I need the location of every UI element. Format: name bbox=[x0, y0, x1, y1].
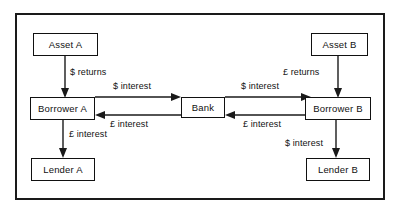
connector-asset-a-to-borrower-a bbox=[61, 56, 69, 98]
node-label: Asset A bbox=[49, 39, 83, 50]
node-borrower-a[interactable]: Borrower A bbox=[30, 97, 95, 120]
diagram-canvas: Asset A Borrower A Lender A Bank Asset B… bbox=[0, 0, 398, 214]
node-asset-a[interactable]: Asset A bbox=[33, 33, 98, 56]
node-lender-a[interactable]: Lender A bbox=[31, 158, 95, 181]
edge-label-asset-b-to-borrower-b: £ returns bbox=[283, 67, 319, 77]
node-borrower-b[interactable]: Borrower B bbox=[305, 97, 371, 120]
edge-label-borrower-a-to-lender-a: £ interest bbox=[69, 129, 107, 139]
connector-asset-b-to-borrower-b bbox=[334, 56, 342, 98]
node-bank[interactable]: Bank bbox=[181, 97, 225, 118]
node-label: Lender A bbox=[43, 164, 83, 175]
connector-borrower-a-to-bank bbox=[95, 93, 181, 101]
connector-bank-to-borrower-a bbox=[95, 111, 181, 119]
edge-label-asset-a-to-borrower-a: $ returns bbox=[70, 67, 106, 77]
node-label: Borrower B bbox=[313, 103, 363, 114]
edge-label-bank-to-borrower-b: $ interest bbox=[241, 81, 279, 91]
edge-label-borrower-b-to-lender-b: $ interest bbox=[285, 138, 323, 148]
node-label: Borrower A bbox=[38, 103, 87, 114]
connector-bank-to-borrower-b bbox=[225, 93, 311, 101]
connector-borrower-a-to-lender-a bbox=[59, 120, 67, 158]
node-label: Lender B bbox=[318, 164, 358, 175]
node-lender-b[interactable]: Lender B bbox=[306, 158, 370, 181]
node-asset-b[interactable]: Asset B bbox=[311, 33, 368, 56]
connector-borrower-b-to-bank bbox=[225, 111, 311, 119]
edge-label-borrower-b-to-bank: £ interest bbox=[243, 119, 281, 129]
node-label: Bank bbox=[192, 102, 214, 113]
edge-label-borrower-a-to-bank: $ interest bbox=[113, 81, 151, 91]
node-label: Asset B bbox=[322, 39, 356, 50]
connector-borrower-b-to-lender-b bbox=[332, 120, 340, 158]
edge-label-bank-to-borrower-a: £ interest bbox=[110, 119, 148, 129]
